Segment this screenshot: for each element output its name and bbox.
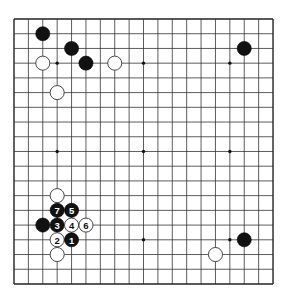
white-stone-icon — [50, 247, 64, 261]
black-stone-icon — [79, 56, 93, 70]
move-number: 3 — [55, 220, 60, 231]
white-stone-icon — [208, 247, 222, 261]
move-number: 1 — [69, 235, 75, 246]
black-stone: 3 — [50, 218, 64, 232]
star-point-icon — [55, 61, 58, 64]
star-point-icon — [228, 238, 231, 241]
white-stone — [50, 189, 64, 203]
black-stone-icon — [237, 41, 251, 55]
black-stone: 5 — [65, 203, 79, 217]
black-stone-icon — [65, 41, 79, 55]
black-stone — [65, 41, 79, 55]
white-stone: 6 — [79, 218, 93, 232]
white-stone: 4 — [65, 218, 79, 232]
black-stone — [237, 233, 251, 247]
black-stone-icon — [237, 233, 251, 247]
star-point-icon — [228, 61, 231, 64]
white-stone — [36, 56, 50, 70]
white-stone — [50, 86, 64, 100]
move-number: 2 — [55, 235, 60, 246]
white-stone-icon — [36, 56, 50, 70]
star-point-icon — [228, 150, 231, 153]
move-number: 4 — [69, 220, 75, 231]
black-stone — [237, 41, 251, 55]
white-stone-icon — [50, 189, 64, 203]
black-stone-icon — [36, 218, 50, 232]
star-point-icon — [142, 238, 145, 241]
black-stone — [79, 56, 93, 70]
white-stone — [208, 247, 222, 261]
move-number: 6 — [83, 220, 88, 231]
white-stone-icon — [108, 56, 122, 70]
star-point-icon — [142, 61, 145, 64]
move-number: 5 — [69, 205, 75, 216]
white-stone — [108, 56, 122, 70]
go-board[interactable]: 7534621 — [0, 0, 286, 300]
star-point-icon — [55, 150, 58, 153]
white-stone-icon — [50, 86, 64, 100]
black-stone — [36, 27, 50, 41]
black-stone — [36, 218, 50, 232]
star-point-icon — [142, 150, 145, 153]
white-stone: 2 — [50, 233, 64, 247]
black-stone-icon — [36, 27, 50, 41]
black-stone: 7 — [50, 203, 64, 217]
white-stone — [50, 247, 64, 261]
go-board-canvas[interactable]: 7534621 — [0, 0, 286, 300]
move-number: 7 — [55, 205, 60, 216]
black-stone: 1 — [65, 233, 79, 247]
